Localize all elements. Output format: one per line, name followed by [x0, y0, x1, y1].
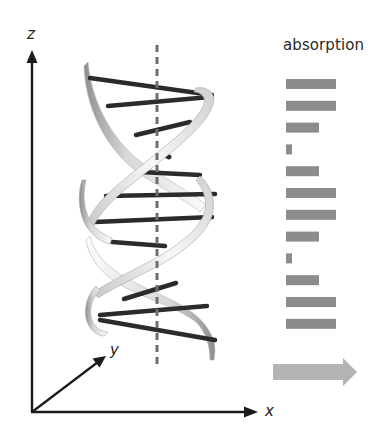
propagation-arrow-icon — [273, 358, 357, 386]
z-axis-arrowhead-icon — [27, 50, 38, 63]
base-pair — [106, 194, 215, 196]
base-pair — [140, 172, 200, 175]
base-pair — [95, 217, 212, 222]
absorption-bar — [286, 232, 319, 242]
absorption-bar — [286, 297, 336, 307]
absorption-bar — [286, 166, 319, 176]
absorption-bar — [286, 319, 336, 329]
backbone-strand-front-top-right — [86, 88, 214, 230]
base-pair — [167, 156, 169, 157]
dna-double-helix — [79, 45, 215, 368]
y-axis-line — [32, 362, 98, 412]
absorption-bar — [286, 210, 336, 220]
absorption-bar — [286, 275, 319, 285]
absorption-bar — [286, 188, 336, 198]
x-axis-label: x — [265, 404, 274, 419]
absorption-bar — [286, 101, 336, 111]
y-axis-label: y — [110, 343, 119, 358]
x-axis-arrowhead-icon — [244, 407, 258, 418]
absorption-title: absorption — [283, 38, 364, 53]
backbone-strand-back-lower — [86, 236, 215, 360]
absorption-bar — [286, 144, 292, 154]
base-pair — [108, 97, 210, 106]
absorption-bar — [286, 253, 292, 263]
z-axis-label: z — [27, 27, 35, 42]
absorption-bar — [286, 123, 319, 133]
base-pair — [90, 78, 212, 95]
dna-absorption-diagram — [0, 0, 372, 437]
absorption-bar — [286, 79, 336, 89]
absorption-bars — [286, 79, 336, 329]
